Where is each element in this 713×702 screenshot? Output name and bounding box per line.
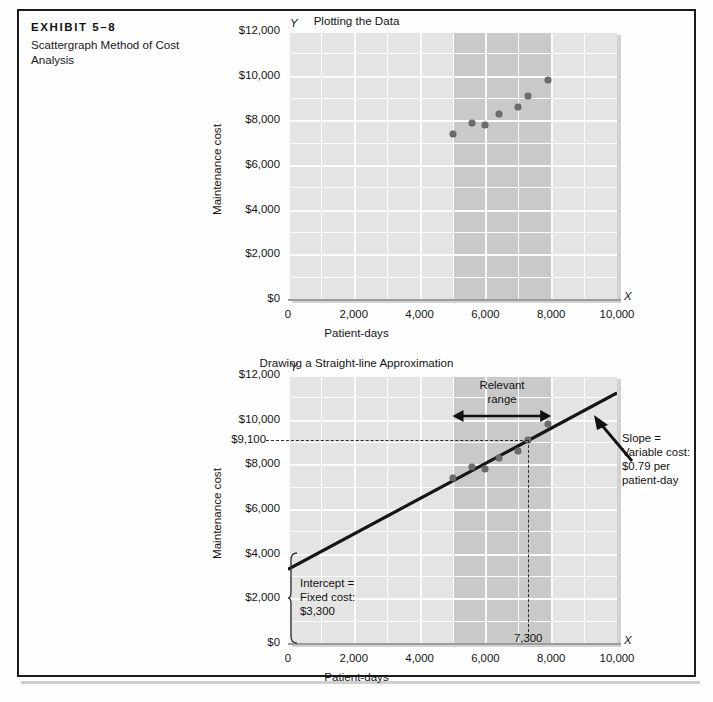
x-tick-label: 4,000 xyxy=(385,652,455,664)
x-tick-label: 10,000 xyxy=(582,308,652,320)
gridline-horizontal xyxy=(288,76,617,78)
y-axis-letter: Y xyxy=(290,361,298,373)
exhibit-page: EXHIBIT 5–8 Scattergraph Method of Cost … xyxy=(0,0,713,702)
data-point xyxy=(496,455,502,461)
intercept-brace xyxy=(288,552,304,644)
x-tick-label: 10,000 xyxy=(582,652,652,664)
data-point xyxy=(545,77,551,83)
relevant-range-label: Relevant range xyxy=(452,379,552,406)
y-tick-label: $10,000 xyxy=(196,413,280,425)
data-point xyxy=(469,464,475,470)
x-tick-label: 6,000 xyxy=(450,308,520,320)
y-tick-label: $12,000 xyxy=(196,24,280,36)
gridline-horizontal xyxy=(288,120,617,122)
y-tick-label: $6,000 xyxy=(196,502,280,514)
y-tick-label: $12,000 xyxy=(196,368,280,380)
intercept-annotation: Intercept = Fixed cost: $3,300 xyxy=(300,576,400,618)
y-tick-label: $10,000 xyxy=(196,69,280,81)
x-tick-label-reference: 7,300 xyxy=(493,632,563,644)
chart-plotting-the-data: Plotting the Data Y X Maintenance cost P… xyxy=(0,0,713,340)
chart-title: Plotting the Data xyxy=(0,14,713,27)
gridline-horizontal xyxy=(288,31,617,33)
x-axis-letter: X xyxy=(624,290,632,302)
data-point xyxy=(496,111,502,117)
gridline-horizontal xyxy=(288,232,617,233)
gridline-horizontal xyxy=(288,53,617,54)
x-tick-label: 4,000 xyxy=(385,308,455,320)
x-tick-label: 0 xyxy=(253,308,323,320)
relevant-range-arrow xyxy=(288,405,617,427)
gridline-horizontal xyxy=(288,165,617,167)
x-tick-label: 2,000 xyxy=(319,652,389,664)
x-tick-label: 8,000 xyxy=(516,652,586,664)
gridline-horizontal xyxy=(288,210,617,212)
y-tick-label: $6,000 xyxy=(196,158,280,170)
x-axis-title: Patient-days xyxy=(0,670,713,683)
x-axis-line xyxy=(288,299,621,301)
y-tick-label: $0 xyxy=(196,636,280,648)
data-point xyxy=(525,93,531,99)
data-point xyxy=(469,120,475,126)
x-axis-letter: X xyxy=(624,634,632,646)
x-tick-label: 2,000 xyxy=(319,308,389,320)
y-tick-label: $8,000 xyxy=(196,113,280,125)
reference-line-horizontal xyxy=(266,440,528,441)
x-tick-label: 0 xyxy=(253,652,323,664)
slope-callout-arrow xyxy=(588,413,658,483)
chart-straight-line-approximation: Drawing a Straight-line Approximation Y … xyxy=(0,348,713,688)
y-tick-label: $2,000 xyxy=(196,247,280,259)
y-tick-label: $0 xyxy=(196,292,280,304)
reference-line-vertical xyxy=(528,440,529,637)
y-tick-label-reference: $9,100 xyxy=(196,433,266,445)
y-tick-label: $2,000 xyxy=(196,591,280,603)
x-tick-label: 6,000 xyxy=(450,652,520,664)
gridline-horizontal xyxy=(288,187,617,188)
data-point xyxy=(450,131,456,137)
data-point xyxy=(450,475,456,481)
x-tick-label: 8,000 xyxy=(516,308,586,320)
x-axis-line xyxy=(288,643,621,645)
gridline-horizontal xyxy=(288,277,617,278)
x-axis-title: Patient-days xyxy=(0,326,713,339)
gridline-horizontal xyxy=(288,143,617,144)
y-tick-label: $4,000 xyxy=(196,203,280,215)
gridline-horizontal xyxy=(288,254,617,256)
plot-area xyxy=(288,31,617,299)
y-tick-label: $8,000 xyxy=(196,457,280,469)
y-tick-label: $4,000 xyxy=(196,547,280,559)
gridline-horizontal xyxy=(288,98,617,99)
y-axis-letter: Y xyxy=(290,17,298,29)
chart-title: Drawing a Straight-line Approximation xyxy=(0,356,713,369)
